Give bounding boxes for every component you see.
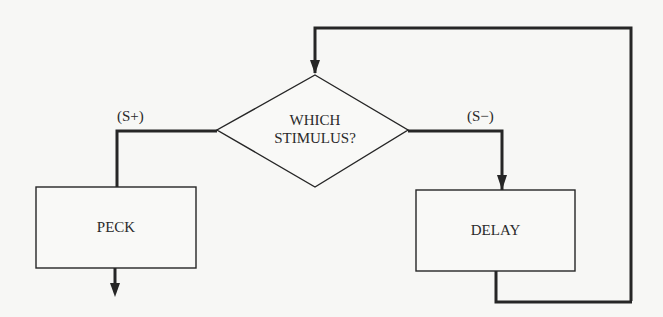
flowchart-graphics [0, 0, 663, 317]
decision-label-line2: STIMULUS? [255, 129, 375, 147]
s-plus-connector [117, 131, 217, 188]
delay-loop-connector [496, 271, 632, 302]
arrow-into-decision-icon [310, 60, 320, 74]
arrow-into-delay-icon [497, 175, 507, 190]
s-plus-label: (S+) [117, 108, 144, 125]
s-minus-label: (S−) [467, 108, 494, 125]
decision-label-line1: WHICH [255, 111, 375, 129]
s-minus-connector [408, 131, 502, 190]
peck-output-arrow-icon [110, 283, 120, 297]
flowchart-diagram: WHICH STIMULUS? (S+) (S−) PECK DELAY [0, 0, 663, 317]
decision-label: WHICH STIMULUS? [255, 111, 375, 147]
peck-label: PECK [36, 219, 196, 236]
delay-label: DELAY [416, 222, 575, 239]
